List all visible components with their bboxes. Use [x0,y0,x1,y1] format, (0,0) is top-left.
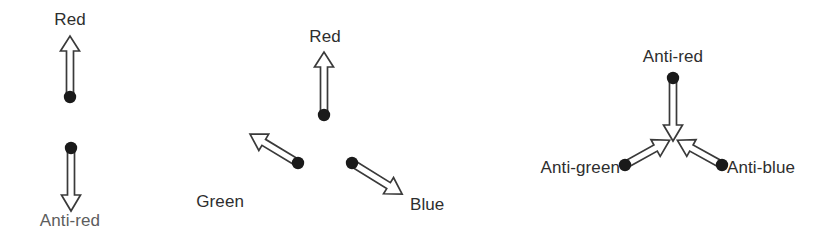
origin-dot-red [64,91,76,103]
origin-dot-antigreen [619,159,631,171]
label-anti-red-panel3: Anti-red [643,48,703,65]
label-anti-blue-panel3: Anti-blue [727,159,795,176]
color-charge-vector-figure: Red Anti-red Red Green Blue Anti-red Ant… [0,0,839,242]
label-green-panel2: Green [196,193,244,210]
origin-dot-red-triad [318,109,330,121]
origin-dot-antired-triad [667,72,679,84]
origin-dot-blue [346,157,358,169]
label-anti-red-panel1: Anti-red [40,212,100,229]
label-red-panel1: Red [54,11,86,28]
label-blue-panel2: Blue [410,196,444,213]
label-anti-green-panel3: Anti-green [541,159,620,176]
label-red-panel2: Red [309,28,341,45]
origin-dot-green [292,157,304,169]
origin-dot-antired [65,142,77,154]
